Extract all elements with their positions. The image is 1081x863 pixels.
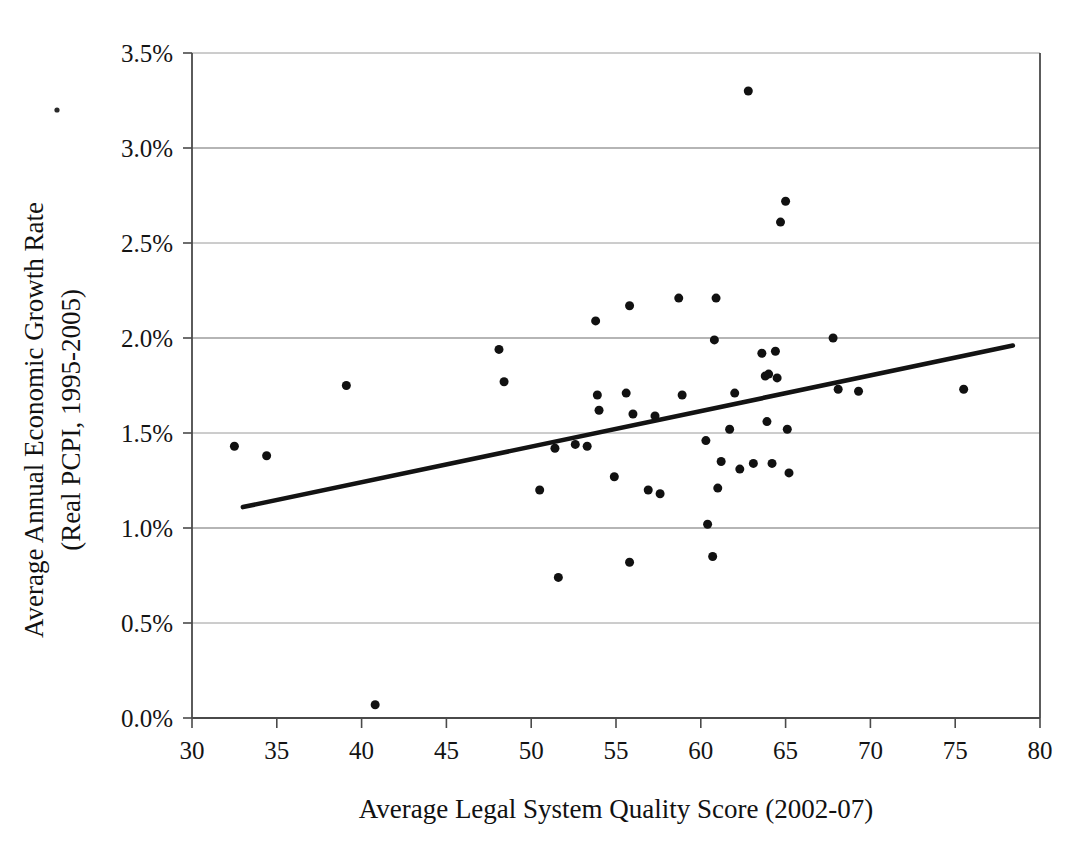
y-tick-label: 0.5% xyxy=(121,610,173,637)
data-point xyxy=(725,425,734,434)
x-tick-label: 70 xyxy=(858,737,883,764)
data-point xyxy=(776,218,785,227)
data-point xyxy=(230,442,239,451)
data-point xyxy=(342,381,351,390)
data-point xyxy=(625,301,634,310)
data-point xyxy=(773,373,782,382)
data-point xyxy=(571,440,580,449)
x-tick-label: 80 xyxy=(1028,737,1053,764)
y-axis-title-line1: Average Annual Economic Growth Rate xyxy=(19,202,49,638)
data-point xyxy=(651,411,660,420)
data-point xyxy=(768,459,777,468)
data-point xyxy=(771,347,780,356)
data-point xyxy=(583,442,592,451)
data-point xyxy=(595,406,604,415)
data-point xyxy=(371,700,380,709)
scatter-chart-figure: 0.0%0.5%1.0%1.5%2.0%2.5%3.0%3.5% 3035404… xyxy=(0,0,1081,863)
data-point xyxy=(593,391,602,400)
x-tick-label: 65 xyxy=(773,737,798,764)
y-tick-label: 3.0% xyxy=(121,135,173,162)
data-point xyxy=(644,486,653,495)
data-point xyxy=(625,558,634,567)
y-tick-label: 2.5% xyxy=(121,230,173,257)
data-point xyxy=(735,465,744,474)
x-axis-title: Average Legal System Quality Score (2002… xyxy=(359,794,874,824)
data-point xyxy=(701,436,710,445)
data-point xyxy=(535,486,544,495)
data-point xyxy=(656,489,665,498)
data-point xyxy=(762,417,771,426)
y-tick-label: 2.0% xyxy=(121,325,173,352)
data-point xyxy=(550,444,559,453)
data-point xyxy=(712,294,721,303)
data-point xyxy=(622,389,631,398)
data-point xyxy=(500,377,509,386)
data-point xyxy=(764,370,773,379)
x-tick-label: 50 xyxy=(519,737,544,764)
data-point xyxy=(783,425,792,434)
data-point xyxy=(710,335,719,344)
data-point xyxy=(628,410,637,419)
x-tick-label: 35 xyxy=(264,737,289,764)
data-point xyxy=(678,391,687,400)
data-point xyxy=(854,387,863,396)
data-point xyxy=(959,385,968,394)
x-tick-label: 60 xyxy=(688,737,713,764)
data-point xyxy=(749,459,758,468)
x-tick-label: 30 xyxy=(180,737,205,764)
y-tick-label: 1.0% xyxy=(121,515,173,542)
data-point xyxy=(708,552,717,561)
data-point xyxy=(610,472,619,481)
data-point xyxy=(674,294,683,303)
data-point xyxy=(744,87,753,96)
data-point xyxy=(784,468,793,477)
data-point xyxy=(834,385,843,394)
data-point xyxy=(717,457,726,466)
y-tick-label: 3.5% xyxy=(121,40,173,67)
data-point xyxy=(262,451,271,460)
data-point xyxy=(781,197,790,206)
y-tick-label: 0.0% xyxy=(121,705,173,732)
data-point xyxy=(703,520,712,529)
data-point xyxy=(757,349,766,358)
y-axis-title-line2: (Real PCPI, 1995-2005) xyxy=(56,289,86,551)
scan-artifact-speck xyxy=(54,107,59,112)
data-point xyxy=(554,573,563,582)
data-point xyxy=(730,389,739,398)
plot-svg: 0.0%0.5%1.0%1.5%2.0%2.5%3.0%3.5% 3035404… xyxy=(0,0,1081,863)
x-tick-label: 55 xyxy=(604,737,629,764)
data-point xyxy=(494,345,503,354)
x-tick-label: 45 xyxy=(434,737,459,764)
x-tick-label: 75 xyxy=(943,737,968,764)
data-point xyxy=(591,316,600,325)
data-point xyxy=(829,334,838,343)
y-tick-label: 1.5% xyxy=(121,420,173,447)
data-point xyxy=(713,484,722,493)
x-tick-label: 40 xyxy=(349,737,374,764)
